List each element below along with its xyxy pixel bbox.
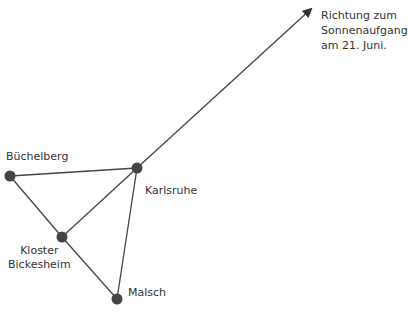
sunrise-direction-arrow bbox=[137, 9, 311, 168]
edge-karlsruhe-malsch bbox=[117, 168, 137, 299]
node-malsch bbox=[112, 294, 123, 305]
label-kloster-bickesheim: Kloster Bickesheim bbox=[8, 244, 71, 272]
edge-buechelberg-karlsruhe bbox=[10, 168, 137, 176]
label-malsch: Malsch bbox=[128, 286, 166, 300]
node-kloster-bickesheim bbox=[57, 232, 68, 243]
label-buechelberg: Büchelberg bbox=[6, 150, 68, 164]
edge-kloster-karlsruhe bbox=[62, 168, 137, 237]
edge-buechelberg-kloster bbox=[10, 176, 62, 237]
node-karlsruhe bbox=[132, 163, 143, 174]
node-buechelberg bbox=[5, 171, 16, 182]
label-sunrise-direction: Richtung zum Sonnenaufgang am 21. Juni. bbox=[321, 8, 408, 53]
label-karlsruhe: Karlsruhe bbox=[145, 184, 197, 198]
